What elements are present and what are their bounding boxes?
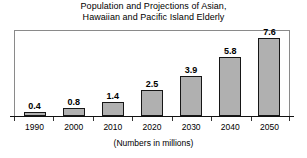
- x-axis-label: 1990: [15, 122, 54, 133]
- x-axis-tick: [93, 117, 94, 121]
- bar: [258, 38, 280, 116]
- x-axis-label: 2050: [250, 122, 289, 133]
- x-axis-caption: (Numbers in millions): [0, 138, 307, 149]
- bar-value-label: 5.8: [224, 46, 237, 56]
- x-axis-tick: [132, 117, 133, 121]
- bar-slot: 5.8: [211, 31, 250, 116]
- bar-slot: 0.8: [54, 31, 93, 116]
- x-axis-tick: [251, 117, 252, 121]
- bar: [219, 57, 241, 116]
- x-axis-label: 2000: [54, 122, 93, 133]
- x-axis-label: 2040: [211, 122, 250, 133]
- x-axis-label: 2030: [172, 122, 211, 133]
- x-axis-tick: [289, 117, 290, 121]
- bar-value-label: 7.6: [263, 27, 276, 37]
- bar-value-label: 3.9: [185, 65, 198, 75]
- x-axis-label: 2010: [93, 122, 132, 133]
- bar-series: 0.40.81.42.53.95.87.6: [15, 31, 289, 116]
- bar-value-label: 2.5: [146, 79, 159, 89]
- x-axis-tick: [53, 117, 54, 121]
- bar: [63, 108, 85, 116]
- bar-value-label: 0.4: [28, 101, 41, 111]
- bar-slot: 1.4: [93, 31, 132, 116]
- chart-title-line-2: Hawaiian and Pacific Island Elderly: [0, 12, 307, 23]
- x-axis-label: 2020: [132, 122, 171, 133]
- bar-slot: 2.5: [132, 31, 171, 116]
- bar-slot: 7.6: [250, 31, 289, 116]
- bar-slot: 3.9: [172, 31, 211, 116]
- bar-value-label: 0.8: [67, 97, 80, 107]
- x-axis-tick: [14, 117, 15, 121]
- bar: [141, 90, 163, 116]
- x-axis-labels: 1990200020102020203020402050: [15, 122, 289, 136]
- chart-figure: Population and Projections of Asian, Haw…: [0, 0, 307, 158]
- x-axis-tick: [211, 117, 212, 121]
- bar: [180, 76, 202, 116]
- bar: [102, 102, 124, 116]
- x-axis-tick: [172, 117, 173, 121]
- bar-value-label: 1.4: [107, 91, 120, 101]
- bar-slot: 0.4: [15, 31, 54, 116]
- chart-title-line-1: Population and Projections of Asian,: [0, 1, 307, 12]
- x-axis-ticks: [14, 117, 290, 121]
- chart-title: Population and Projections of Asian, Haw…: [0, 1, 307, 22]
